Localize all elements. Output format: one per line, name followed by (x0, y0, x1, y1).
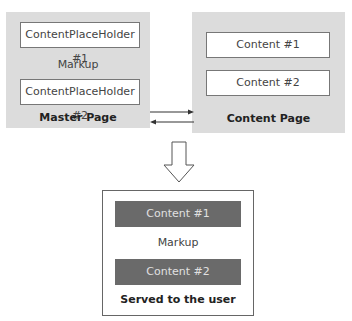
master-markup-label: Markup (6, 58, 150, 71)
served-markup-label: Markup (103, 236, 253, 249)
down-arrow-icon (163, 141, 195, 183)
content-placeholder-2: ContentPlaceHolder #2 (20, 79, 140, 105)
master-page-panel: ContentPlaceHolder #1 Markup ContentPlac… (6, 12, 150, 128)
served-content-1: Content #1 (115, 201, 241, 227)
served-to-user-panel: Content #1 Markup Content #2 Served to t… (102, 190, 254, 316)
content-1-box: Content #1 (206, 32, 330, 58)
bidirectional-arrows-icon (148, 106, 196, 128)
content-2-box: Content #2 (206, 70, 330, 96)
content-page-panel: Content #1 Content #2 Content Page (192, 12, 345, 133)
served-title: Served to the user (103, 293, 253, 306)
content-placeholder-1: ContentPlaceHolder #1 (20, 22, 140, 48)
served-content-2: Content #2 (115, 259, 241, 285)
master-page-title: Master Page (6, 111, 150, 124)
content-page-title: Content Page (192, 112, 345, 125)
